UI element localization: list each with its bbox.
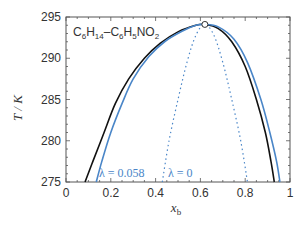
x-axis-title: xb (170, 200, 182, 217)
y-tick-label: 285 (41, 93, 61, 107)
critical-point-marker (202, 21, 208, 27)
annotation-lambda-0058: λ = 0.058 (99, 166, 145, 180)
y-tick-label: 280 (41, 134, 61, 148)
y-tick-label: 275 (41, 175, 61, 189)
x-tick-label: 0.4 (147, 186, 164, 200)
data-series (85, 24, 280, 182)
x-tick-label: 0.2 (102, 186, 119, 200)
system-formula-label: C6H14–C6H5NO2 (73, 25, 160, 41)
y-axis-tick-labels: 275280285290295 (41, 10, 61, 189)
y-tick-label: 295 (41, 10, 61, 24)
annotation-lambda-0: λ = 0 (168, 166, 193, 180)
phase-diagram-chart: 275280285290295 00.20.40.60.81 C6H14–C6H… (0, 0, 298, 227)
x-tick-label: 1 (287, 186, 294, 200)
x-tick-label: 0 (63, 186, 70, 200)
lambda-0058-curve (96, 24, 280, 182)
x-tick-label: 0.8 (237, 186, 254, 200)
y-axis-title: T / K (10, 94, 25, 121)
x-axis-tick-labels: 00.20.40.60.81 (63, 186, 294, 200)
y-tick-label: 290 (41, 51, 61, 65)
lambda-0-curve (162, 24, 247, 182)
x-tick-label: 0.6 (192, 186, 209, 200)
experimental-curve (85, 24, 274, 182)
